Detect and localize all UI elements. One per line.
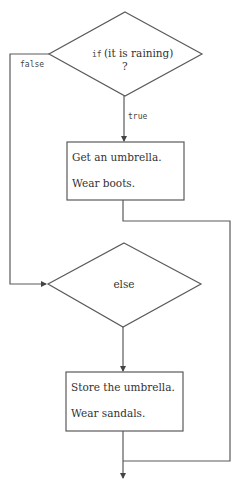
- process1-line2: Wear boots.: [72, 177, 135, 189]
- false-label: false: [20, 60, 44, 69]
- process-get-umbrella: Get an umbrella. Wear boots.: [67, 142, 184, 200]
- process2-line1: Store the umbrella.: [71, 381, 175, 393]
- else-label: else: [113, 278, 134, 290]
- if-keyword: if: [92, 50, 102, 59]
- question-mark: ?: [122, 60, 128, 72]
- decision-else: else: [48, 243, 201, 327]
- process1-line1: Get an umbrella.: [72, 151, 162, 163]
- condition-text: (it is raining): [104, 47, 173, 59]
- false-branch-connector: [10, 54, 49, 284]
- process-store-umbrella: Store the umbrella. Wear sandals.: [66, 372, 183, 431]
- decision-if-raining: if (it is raining) ?: [49, 12, 202, 96]
- process2-line2: Wear sandals.: [71, 407, 145, 419]
- true-label: true: [128, 112, 147, 121]
- flowchart: if (it is raining) ? false true Get an u…: [0, 0, 237, 484]
